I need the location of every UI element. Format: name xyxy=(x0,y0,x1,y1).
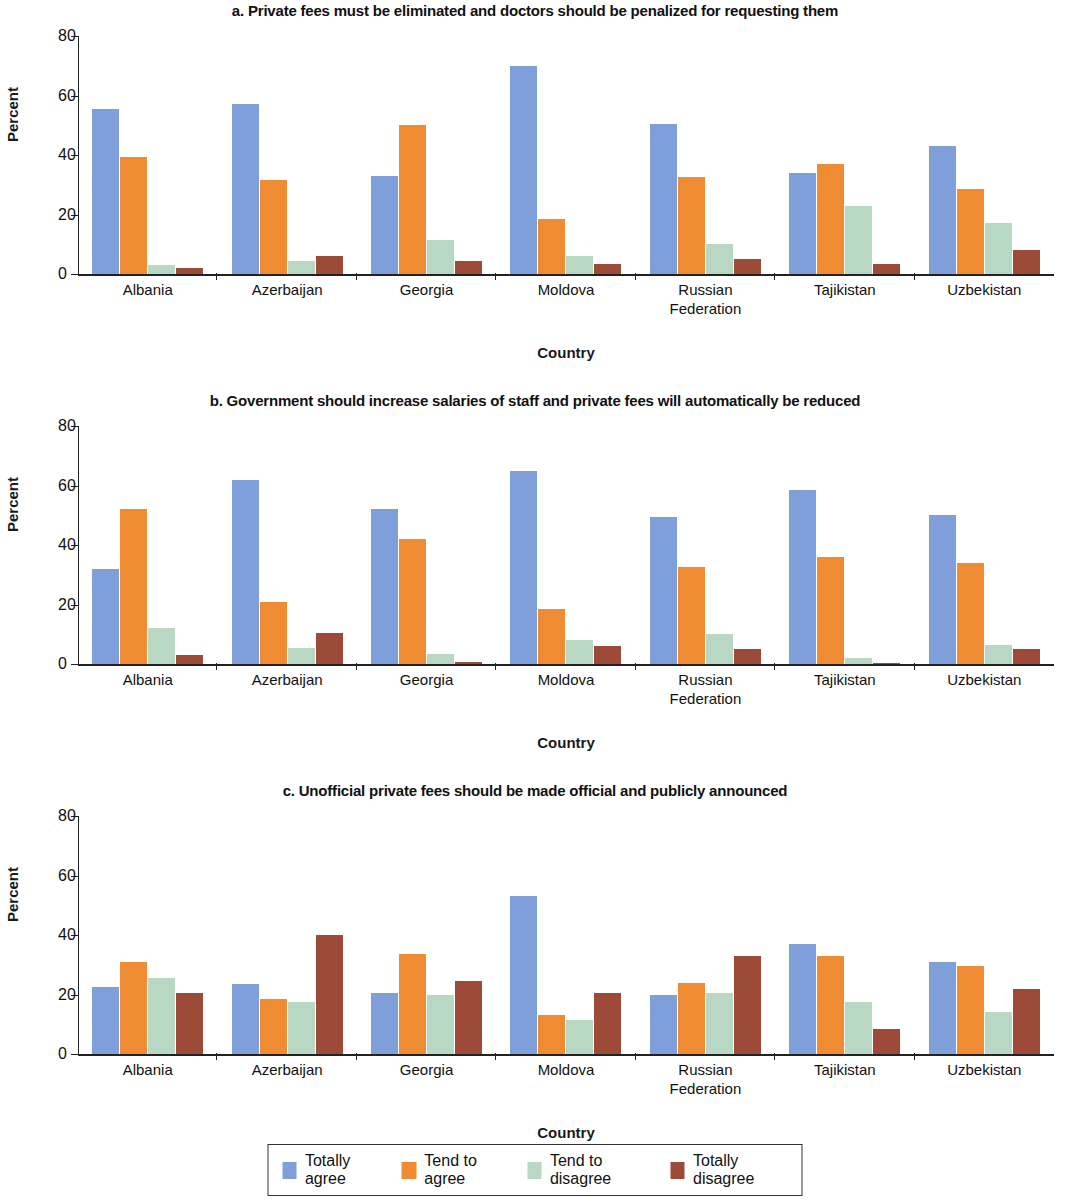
x-tick xyxy=(774,1053,775,1060)
bar[interactable] xyxy=(120,962,147,1054)
bar[interactable] xyxy=(288,648,315,664)
bar[interactable] xyxy=(455,261,482,274)
bar[interactable] xyxy=(427,995,454,1055)
bar[interactable] xyxy=(399,954,426,1054)
bar[interactable] xyxy=(678,177,705,274)
bar[interactable] xyxy=(538,609,565,664)
x-tick-label: Albania xyxy=(78,1060,217,1098)
bar[interactable] xyxy=(650,995,677,1055)
bar[interactable] xyxy=(260,602,287,664)
bar[interactable] xyxy=(594,646,621,664)
bar[interactable] xyxy=(92,569,119,664)
bar[interactable] xyxy=(399,539,426,664)
bar[interactable] xyxy=(538,1015,565,1054)
bar[interactable] xyxy=(1013,989,1040,1054)
bar[interactable] xyxy=(957,563,984,664)
bar[interactable] xyxy=(734,649,761,664)
x-tick-label: Azerbaijan xyxy=(217,670,356,708)
panel-b-bar-groups xyxy=(78,426,1054,664)
bar[interactable] xyxy=(371,509,398,664)
bar[interactable] xyxy=(232,480,259,664)
panel-a-x-tick-labels: AlbaniaAzerbaijanGeorgiaMoldovaRussianFe… xyxy=(78,280,1054,318)
bar[interactable] xyxy=(650,124,677,274)
bar[interactable] xyxy=(706,993,733,1054)
bar[interactable] xyxy=(510,66,537,274)
bar[interactable] xyxy=(845,658,872,664)
bar[interactable] xyxy=(92,109,119,274)
bar[interactable] xyxy=(985,223,1012,274)
bar[interactable] xyxy=(734,956,761,1054)
x-tick-label: RussianFederation xyxy=(636,670,775,708)
panel-a-bar-groups xyxy=(78,36,1054,274)
legend-item[interactable]: Tend to agree xyxy=(402,1152,508,1188)
bar[interactable] xyxy=(371,176,398,274)
bar[interactable] xyxy=(148,978,175,1054)
bar[interactable] xyxy=(510,471,537,664)
bar[interactable] xyxy=(957,966,984,1054)
bar[interactable] xyxy=(594,264,621,274)
bar[interactable] xyxy=(566,256,593,274)
legend-item[interactable]: Totally disagree xyxy=(671,1152,788,1188)
x-tick xyxy=(356,273,357,280)
bar[interactable] xyxy=(316,935,343,1054)
bar[interactable] xyxy=(316,633,343,664)
bar[interactable] xyxy=(706,244,733,274)
bar-group xyxy=(78,36,217,274)
bar[interactable] xyxy=(455,662,482,664)
legend-label: Tend to disagree xyxy=(550,1152,651,1188)
bar[interactable] xyxy=(260,999,287,1054)
bar[interactable] xyxy=(873,1029,900,1054)
bar[interactable] xyxy=(1013,649,1040,664)
bar[interactable] xyxy=(148,265,175,274)
bar[interactable] xyxy=(120,509,147,664)
bar[interactable] xyxy=(817,164,844,274)
bar[interactable] xyxy=(929,515,956,664)
bar[interactable] xyxy=(706,634,733,664)
bar[interactable] xyxy=(510,896,537,1054)
bar[interactable] xyxy=(817,956,844,1054)
bar[interactable] xyxy=(288,1002,315,1054)
bar[interactable] xyxy=(399,125,426,274)
bar[interactable] xyxy=(650,517,677,664)
bar[interactable] xyxy=(594,993,621,1054)
bar[interactable] xyxy=(845,206,872,274)
bar[interactable] xyxy=(455,981,482,1054)
bar[interactable] xyxy=(92,987,119,1054)
bar[interactable] xyxy=(985,1012,1012,1054)
bar[interactable] xyxy=(873,264,900,274)
bar[interactable] xyxy=(427,654,454,664)
bar[interactable] xyxy=(232,104,259,274)
bar[interactable] xyxy=(734,259,761,274)
legend-item[interactable]: Tend to disagree xyxy=(527,1152,650,1188)
bar-group xyxy=(775,36,914,274)
bar[interactable] xyxy=(957,189,984,274)
bar[interactable] xyxy=(427,240,454,274)
bar[interactable] xyxy=(316,256,343,274)
bar[interactable] xyxy=(538,219,565,274)
bar[interactable] xyxy=(566,640,593,664)
bar[interactable] xyxy=(260,180,287,274)
bar[interactable] xyxy=(817,557,844,664)
bar[interactable] xyxy=(176,993,203,1054)
bar[interactable] xyxy=(789,173,816,274)
bar[interactable] xyxy=(148,628,175,664)
bar[interactable] xyxy=(929,962,956,1054)
bar[interactable] xyxy=(985,645,1012,664)
legend-item[interactable]: Totally agree xyxy=(283,1152,382,1188)
bar[interactable] xyxy=(678,567,705,664)
bar[interactable] xyxy=(845,1002,872,1054)
bar[interactable] xyxy=(232,984,259,1054)
bar[interactable] xyxy=(566,1020,593,1054)
bar[interactable] xyxy=(120,157,147,275)
bar[interactable] xyxy=(789,944,816,1054)
bar[interactable] xyxy=(678,983,705,1054)
bar[interactable] xyxy=(1013,250,1040,274)
bar[interactable] xyxy=(789,490,816,664)
bar[interactable] xyxy=(873,663,900,664)
bar[interactable] xyxy=(176,655,203,664)
bar[interactable] xyxy=(929,146,956,274)
bar-group xyxy=(775,426,914,664)
bar[interactable] xyxy=(176,268,203,274)
bar[interactable] xyxy=(288,261,315,274)
bar[interactable] xyxy=(371,993,398,1054)
